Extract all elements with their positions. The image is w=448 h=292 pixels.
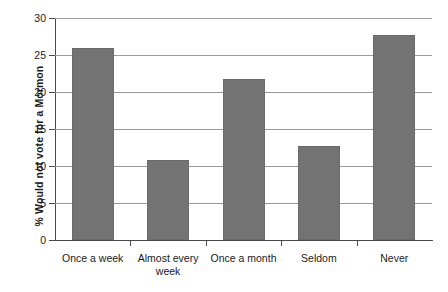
y-tick-mark: [49, 240, 55, 241]
y-tick-mark: [49, 18, 55, 19]
y-tick-mark: [49, 203, 55, 204]
x-axis-label: Almost every week: [130, 252, 205, 277]
bar-chart: % Would not vote for a Mormon 0510152025…: [0, 0, 448, 292]
x-tick-mark: [281, 240, 282, 246]
y-tick-label: 5: [40, 197, 46, 209]
bar[interactable]: [72, 48, 114, 240]
x-tick-mark: [357, 240, 358, 246]
y-tick-mark: [49, 166, 55, 167]
x-tick-mark: [130, 240, 131, 246]
y-tick-mark: [49, 92, 55, 93]
x-axis-label: Once a month: [206, 252, 281, 265]
x-axis-label: Never: [357, 252, 432, 265]
grid-line: [55, 18, 432, 19]
bar[interactable]: [223, 79, 265, 240]
x-tick-mark: [206, 240, 207, 246]
plot-area: 051015202530: [55, 18, 432, 240]
bar[interactable]: [147, 160, 189, 240]
x-axis-label: Seldom: [281, 252, 356, 265]
x-axis-label: Once a week: [55, 252, 130, 265]
x-axis-line: [55, 240, 433, 241]
bar[interactable]: [298, 146, 340, 240]
y-tick-mark: [49, 129, 55, 130]
y-tick-label: 0: [40, 234, 46, 246]
y-tick-mark: [49, 55, 55, 56]
y-axis-title: % Would not vote for a Mormon: [26, 0, 52, 292]
y-tick-label: 10: [34, 160, 46, 172]
y-tick-label: 20: [34, 86, 46, 98]
bar[interactable]: [373, 35, 415, 240]
y-tick-label: 25: [34, 49, 46, 61]
y-tick-label: 30: [34, 12, 46, 24]
y-tick-label: 15: [34, 123, 46, 135]
